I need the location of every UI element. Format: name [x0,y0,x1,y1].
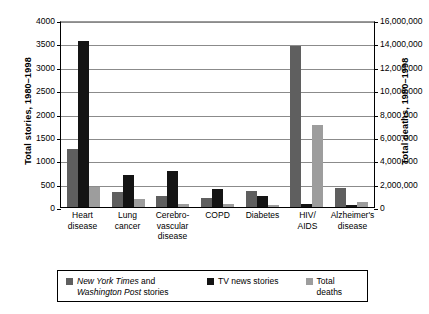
y-tick-label-right: 10,000,000 [380,87,423,96]
y-tick-label-left: 500 [41,181,55,190]
y-tick-label-right: 6,000,000 [380,134,418,143]
y-tick-label-right: 14,000,000 [380,40,423,49]
legend-swatch-icon [207,278,214,285]
y-tick-label-left: 0 [50,204,55,213]
tick-mark [374,69,378,70]
y-tick-label-left: 3000 [36,64,55,73]
bar [112,192,123,207]
legend-item-newspaper-stories: New York Times andWashington Post storie… [66,276,207,297]
legend-item-tv-news-stories: TV news stories [207,276,306,287]
tick-mark [374,139,378,140]
bar [178,204,189,208]
x-axis-label: Cerebro-vasculardisease [150,210,195,256]
tick-mark [374,92,378,93]
x-axis-labels: HeartdiseaseLungcancerCerebro-vasculardi… [60,210,375,256]
y-tick-label-right: 4,000,000 [380,157,418,166]
bar [67,149,78,207]
bar [89,187,100,207]
bar [201,198,212,207]
tick-mark [374,22,378,23]
legend-swatch-icon [306,278,313,285]
bar [134,199,145,207]
bar-group [106,22,151,207]
bar [167,171,178,207]
y-tick-label-left: 4000 [36,17,55,26]
bar [335,188,346,207]
bar [246,191,257,207]
bar [357,202,368,207]
x-axis-label: HIV/AIDS [285,210,330,256]
bar [346,205,357,207]
bar [290,46,301,207]
legend-label-newspaper-stories: New York Times andWashington Post storie… [77,276,169,297]
tick-mark [374,45,378,46]
y-tick-label-right: 12,000,000 [380,64,423,73]
y-tick-label-right: 2,000,000 [380,181,418,190]
bar-group [285,22,330,207]
plot-area: 05001000150020002500300035004000 02,000,… [60,21,375,208]
y-tick-label-left: 2000 [36,111,55,120]
legend-item-total-deaths: Total deaths [306,276,359,297]
bar [257,196,268,207]
tick-mark [374,116,378,117]
bar [301,204,312,207]
tick-mark [374,186,378,187]
bar [268,205,279,207]
chart-legend: New York Times andWashington Post storie… [57,270,368,302]
bar [312,125,323,207]
y-tick-label-right: 16,000,000 [380,17,423,26]
bar [156,196,167,207]
x-axis-label: Lungcancer [105,210,150,256]
bar-group [61,22,106,207]
x-axis-label: Alzheimer'sdisease [330,210,375,256]
bar-groups [61,22,374,207]
bar [212,189,223,207]
bar [78,41,89,207]
bar-group [329,22,374,207]
bar [123,175,134,207]
legend-label-tv-news-stories: TV news stories [218,276,278,287]
tick-mark [374,162,378,163]
y-tick-label-left: 3500 [36,40,55,49]
bar-group [195,22,240,207]
chart-figure: Total stories, 1980–1998 Total deaths, 1… [0,0,429,314]
x-axis-label: Heartdisease [60,210,105,256]
bar-group [240,22,285,207]
bar [223,204,234,207]
y-tick-label-left: 1000 [36,157,55,166]
x-axis-label: COPD [195,210,240,256]
legend-label-total-deaths: Total deaths [317,276,359,297]
y-tick-label-right: 0 [380,204,385,213]
y-tick-label-left: 1500 [36,134,55,143]
y-tick-label-left: 2500 [36,87,55,96]
y-tick-label-right: 8,000,000 [380,111,418,120]
bar-group [150,22,195,207]
x-axis-label: Diabetes [240,210,285,256]
legend-swatch-icon [66,278,73,285]
y-axis-left-title: Total stories, 1980–1998 [23,36,33,186]
